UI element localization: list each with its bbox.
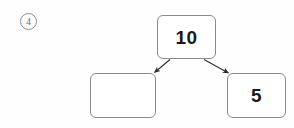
arrow-total-to-left-part	[155, 60, 171, 73]
right-part-box[interactable]: 5	[227, 73, 286, 118]
total-box[interactable]: 10	[157, 15, 216, 59]
right-part-box-value: 5	[251, 86, 262, 105]
left-part-box-empty-answer-blank[interactable]	[90, 73, 156, 118]
item-number-badge: 4	[20, 13, 37, 30]
total-box-value: 10	[175, 28, 197, 47]
worksheet-item: 4 10 5	[0, 0, 294, 128]
arrow-total-to-right-part	[204, 60, 229, 74]
item-number-label: 4	[26, 17, 31, 27]
